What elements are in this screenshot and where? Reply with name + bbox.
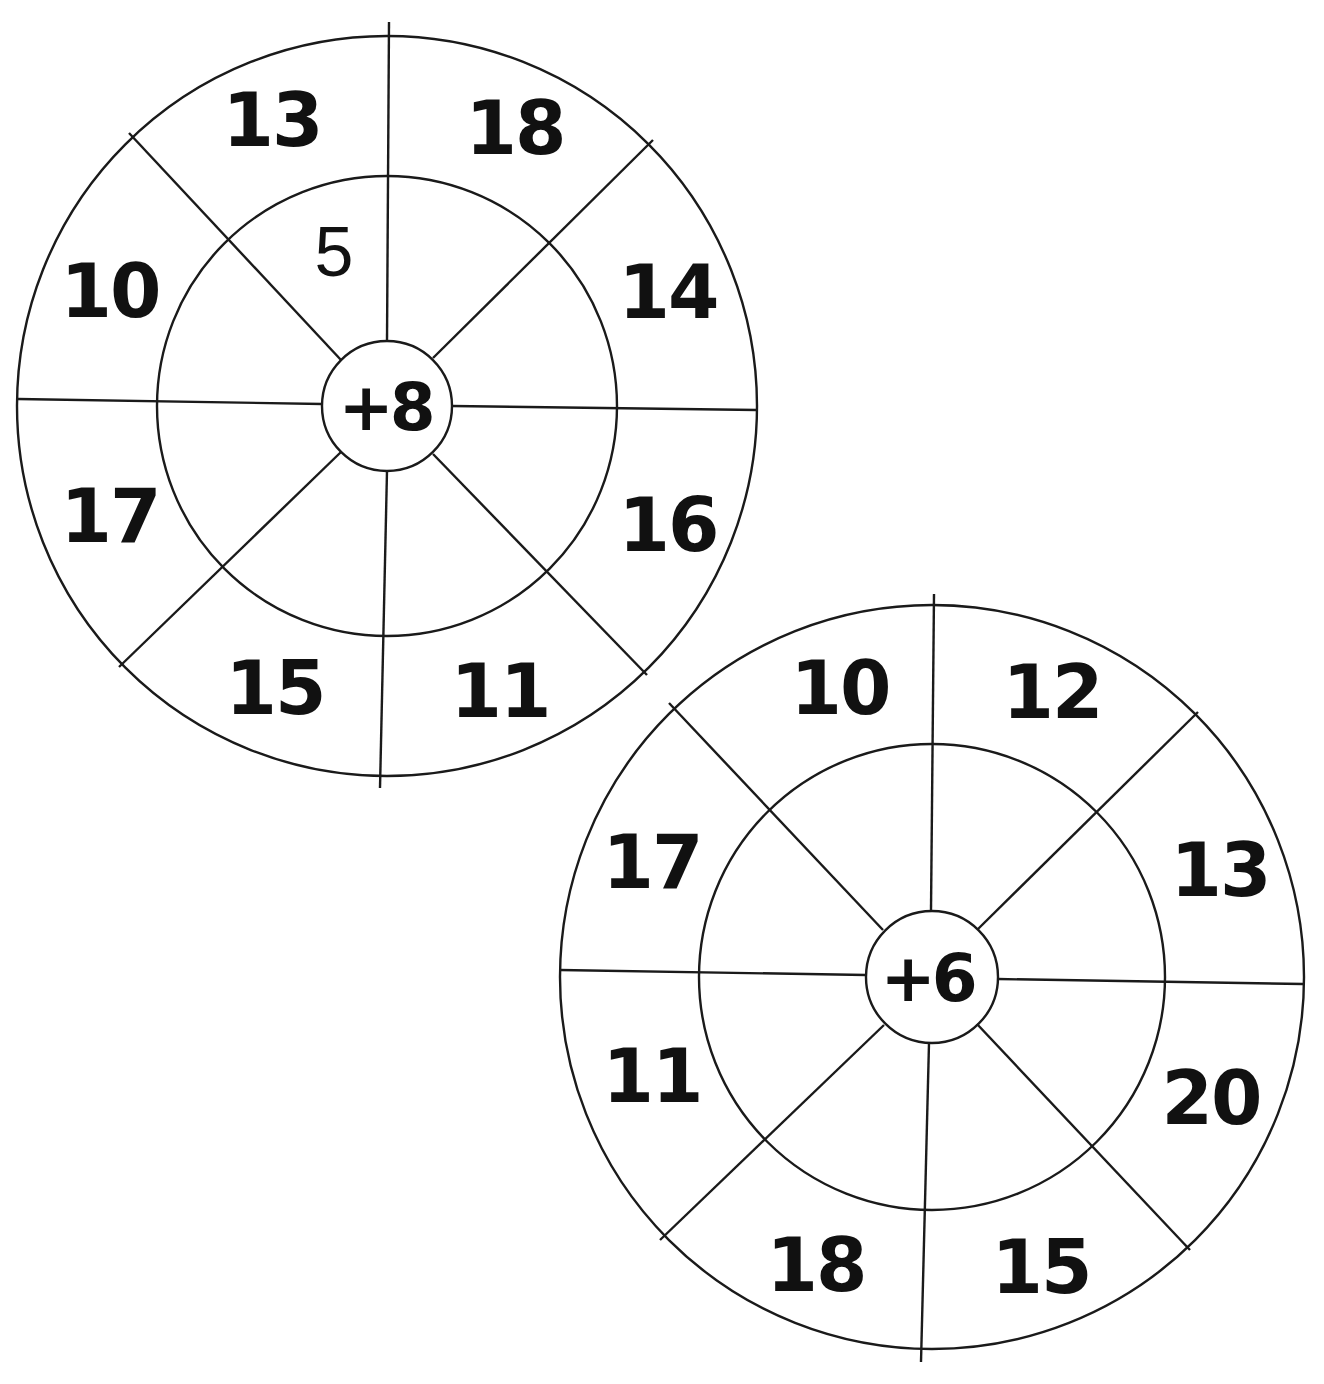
wheel-1-outer-number: 18 bbox=[466, 91, 565, 165]
wheel-1-outer-number: 15 bbox=[226, 651, 325, 725]
wheel-1-outer-number: 16 bbox=[619, 488, 718, 562]
wheel-2-outer-number: 12 bbox=[1003, 655, 1102, 729]
wheel-2-outer-number: 10 bbox=[791, 651, 890, 725]
wheel-2-outer-number: 17 bbox=[603, 825, 702, 899]
wheel-1-answer-field[interactable]: 5 bbox=[315, 217, 352, 287]
wheel-1-outer-number: 17 bbox=[61, 479, 160, 553]
wheel-2-outer-number: 18 bbox=[767, 1228, 866, 1302]
wheel-2-operator: +6 bbox=[880, 946, 973, 1012]
wheel-1-operator: +8 bbox=[338, 375, 431, 441]
wheel-1-outer-number: 14 bbox=[619, 255, 718, 329]
wheel-1-outer-number: 13 bbox=[223, 83, 322, 157]
wheel-2-outer-number: 15 bbox=[992, 1230, 1091, 1304]
wheel-lines bbox=[0, 0, 1324, 1384]
wheel-1-outer-number: 11 bbox=[451, 654, 550, 728]
wheel-2-outer-number: 11 bbox=[603, 1039, 702, 1113]
wheel-1-outer-number: 10 bbox=[61, 254, 160, 328]
wheel-2-outer-number: 13 bbox=[1171, 833, 1270, 907]
wheel-2-outer-number: 20 bbox=[1162, 1061, 1261, 1135]
